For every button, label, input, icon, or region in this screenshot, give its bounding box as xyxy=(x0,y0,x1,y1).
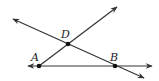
line-db xyxy=(13,19,144,78)
geometry-diagram: A D B xyxy=(0,0,159,81)
label-d: D xyxy=(60,28,70,41)
label-a: A xyxy=(30,51,39,64)
point-b xyxy=(113,64,118,69)
label-b: B xyxy=(109,51,118,64)
point-a xyxy=(37,64,42,69)
point-d xyxy=(66,42,71,47)
